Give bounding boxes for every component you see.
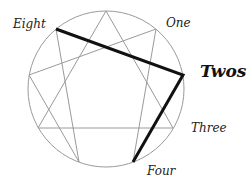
- enneagram-circle: [28, 11, 184, 167]
- label-twos: Twos: [200, 61, 247, 81]
- enneagram-diagram: Eight One Twos Three Four: [0, 0, 251, 181]
- label-one: One: [166, 16, 191, 30]
- inner-hexad: [29, 29, 183, 162]
- label-four: Four: [146, 164, 177, 178]
- label-three: Three: [191, 121, 227, 135]
- label-eight: Eight: [12, 17, 46, 31]
